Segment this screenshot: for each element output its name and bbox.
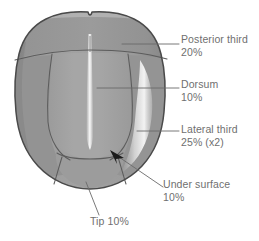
label-posterior-third-line1: Posterior third xyxy=(181,33,248,45)
tongue-illustration xyxy=(10,0,172,189)
label-dorsum-line2: 10% xyxy=(181,91,202,103)
label-tip: Tip 10% xyxy=(90,215,129,228)
label-lateral-third-line2: 25% (x2) xyxy=(181,136,224,148)
label-under-surface-line2: 10% xyxy=(163,191,184,203)
label-lateral-third: Lateral third25% (x2) xyxy=(181,123,238,148)
label-dorsum: Dorsum10% xyxy=(181,78,218,103)
label-lateral-third-line1: Lateral third xyxy=(181,123,238,135)
label-under-surface: Under surface10% xyxy=(163,178,230,203)
label-under-surface-line1: Under surface xyxy=(163,178,230,190)
label-posterior-third: Posterior third20% xyxy=(181,33,248,58)
label-posterior-third-line2: 20% xyxy=(181,46,202,58)
label-tip-line1: Tip 10% xyxy=(90,215,129,227)
label-dorsum-line1: Dorsum xyxy=(181,78,218,90)
